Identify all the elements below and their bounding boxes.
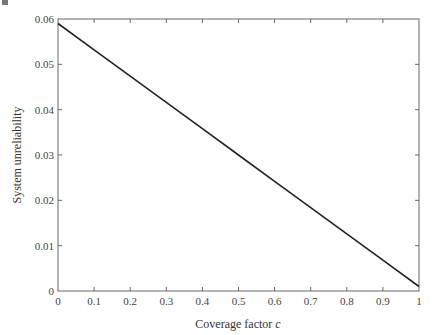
x-axis-label-text: Coverage factor [195, 317, 275, 331]
line-chart: 00.10.20.30.40.50.60.70.80.91 00.010.020… [0, 0, 437, 335]
x-tick-label: 0.7 [304, 295, 318, 307]
y-tick-label: 0.03 [35, 149, 55, 161]
x-tick-label: 0.5 [232, 295, 246, 307]
x-tick-labels: 00.10.20.30.40.50.60.70.80.91 [55, 295, 422, 307]
series-line [58, 24, 419, 287]
y-axis-label: System unreliability [10, 107, 24, 204]
data-series [58, 24, 419, 287]
x-tick-label: 1 [416, 295, 422, 307]
x-axis-label: Coverage factor c [195, 317, 281, 331]
x-tick-label: 0.8 [340, 295, 354, 307]
x-tick-label: 0.2 [123, 295, 137, 307]
y-tick-labels: 00.010.020.030.040.050.06 [35, 13, 55, 297]
y-tick-label: 0.06 [35, 13, 55, 25]
x-tick-label: 0 [55, 295, 61, 307]
x-axis-label-variable: c [275, 317, 281, 331]
x-tick-label: 0.1 [87, 295, 101, 307]
x-tick-label: 0.6 [268, 295, 282, 307]
x-tick-label: 0.4 [196, 295, 210, 307]
y-tick-label: 0.04 [35, 104, 55, 116]
x-tick-label: 0.3 [159, 295, 173, 307]
x-tick-label: 0.9 [376, 295, 390, 307]
y-tick-label: 0.01 [35, 240, 54, 252]
y-tick-label: 0.05 [35, 58, 55, 70]
y-tick-label: 0.02 [35, 194, 54, 206]
y-tick-label: 0 [49, 285, 55, 297]
